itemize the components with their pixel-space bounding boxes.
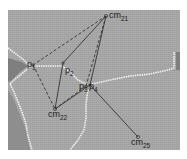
- region-diagram: cm21 p1 p2 p3 p4 cm22 cm25: [0, 0, 187, 159]
- dark-region-right: [176, 52, 180, 70]
- map-background: [8, 10, 180, 150]
